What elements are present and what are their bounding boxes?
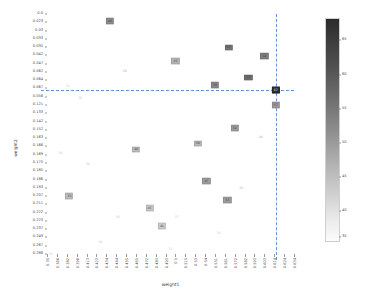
x-axis-label: weight1 — [47, 282, 294, 287]
y-tick-mark — [45, 245, 48, 246]
x-tick-label: 0.561 — [225, 258, 229, 268]
data-point[interactable]: 41 — [158, 223, 166, 230]
y-tick-mark — [45, 105, 48, 106]
x-tick-label: 0.551 — [215, 258, 219, 268]
data-point-label: 57 — [274, 104, 278, 107]
y-tick-label: 0.175 — [33, 161, 43, 165]
colorbar-tick-label: 35 — [342, 235, 347, 239]
data-point[interactable]: 40 — [132, 146, 140, 153]
y-tick-mark — [45, 154, 48, 155]
data-point[interactable]: 56 — [59, 153, 63, 156]
data-point[interactable]: 39 — [239, 188, 243, 191]
x-tick-mark — [146, 254, 147, 257]
y-tick-label: 0.047 — [33, 62, 43, 66]
x-tick-label: 0.423 — [96, 258, 100, 268]
colorbar-tick-mark — [339, 211, 341, 212]
y-tick-label: 0.207 — [33, 194, 43, 198]
data-point[interactable]: 45 — [145, 205, 153, 212]
x-tick-mark — [166, 254, 167, 257]
x-tick-mark — [136, 254, 137, 257]
x-tick-mark — [175, 254, 176, 257]
data-point-label: 53 — [225, 198, 229, 201]
y-tick-mark — [45, 187, 48, 188]
x-tick-label: 0.54 — [205, 258, 209, 266]
data-point[interactable]: 44 — [259, 136, 263, 139]
y-tick-label: 0.152 — [33, 128, 43, 132]
data-point-label: 52 — [233, 126, 237, 129]
x-tick-label: 0.515 — [185, 258, 189, 268]
data-point[interactable]: 33 — [65, 193, 73, 200]
y-tick-label: 0.056 — [33, 95, 43, 99]
data-point-label: 65 — [174, 59, 178, 62]
x-tick-mark — [254, 254, 255, 257]
y-tick-label: 0.067 — [33, 87, 43, 91]
y-tick-label: 0.062 — [33, 70, 43, 74]
x-tick-mark — [96, 254, 97, 257]
data-point-label: 31 — [169, 249, 173, 252]
data-point[interactable]: 59 — [123, 70, 127, 73]
x-tick-label: 0.582 — [245, 258, 249, 268]
data-point[interactable]: 52 — [231, 125, 239, 132]
x-tick-label: 0.493 — [166, 258, 170, 268]
data-point-label: 36 — [217, 232, 221, 235]
data-point[interactable]: 65 — [171, 57, 179, 64]
data-point[interactable]: 61 — [244, 74, 252, 81]
colorbar-tick-mark — [339, 177, 341, 178]
y-tick-label: 0.288 — [33, 252, 43, 256]
data-point[interactable]: 34 — [98, 242, 102, 245]
data-point-label: 58 — [213, 83, 217, 86]
data-point[interactable]: 66 — [106, 18, 114, 25]
x-tick-label: 0.413 — [87, 258, 91, 268]
y-tick-mark — [45, 220, 48, 221]
data-point[interactable]: 32 — [49, 254, 53, 257]
data-point[interactable]: 53 — [223, 197, 231, 204]
y-tick-mark — [45, 146, 48, 147]
data-point-label: 40 — [134, 148, 138, 151]
data-point[interactable]: 50 — [194, 140, 202, 147]
y-tick-label: 0.023 — [33, 20, 43, 24]
x-tick-mark — [185, 254, 186, 257]
y-tick-label: 0.169 — [33, 153, 43, 157]
x-tick-mark — [87, 254, 88, 257]
y-tick-label: 0.222 — [33, 211, 43, 215]
x-tick-label: 0.472 — [146, 258, 150, 268]
data-point[interactable]: 57 — [272, 102, 280, 109]
data-point-label: 63 — [227, 46, 231, 49]
colorbar-tick-mark — [339, 142, 341, 143]
y-tick-label: 0.064 — [33, 78, 43, 82]
data-point[interactable]: 63 — [224, 44, 232, 51]
colorbar-tick-mark — [339, 236, 341, 237]
y-tick-label: 0.211 — [33, 203, 43, 207]
y-tick-label: 0.166 — [33, 145, 43, 149]
data-point-label: 47 — [204, 179, 208, 182]
y-tick-label: 0.0 — [37, 12, 43, 16]
x-tick-label: 0.455 — [126, 258, 130, 268]
x-tick-label: 0.366 — [57, 258, 61, 268]
data-point[interactable]: 37 — [175, 216, 179, 219]
x-tick-mark — [205, 254, 206, 257]
y-tick-mark — [45, 88, 48, 89]
y-tick-mark — [45, 162, 48, 163]
x-tick-label: 0.603 — [264, 258, 268, 268]
y-tick-label: 0.042 — [33, 54, 43, 58]
x-tick-label: 0.35 — [47, 258, 51, 266]
y-tick-label: 0.033 — [33, 37, 43, 41]
y-tick-mark — [45, 38, 48, 39]
data-point[interactable]: 47 — [202, 177, 210, 184]
data-point-label: 50 — [196, 142, 200, 145]
x-tick-mark — [57, 254, 58, 257]
data-point[interactable]: 36 — [217, 232, 221, 235]
y-tick-label: 0.249 — [33, 236, 43, 240]
x-tick-label: 0.572 — [235, 258, 239, 268]
data-point[interactable]: 38 — [115, 216, 119, 219]
highlighted-data-point[interactable]: 67 — [272, 87, 280, 94]
data-point[interactable]: 55 — [78, 98, 82, 101]
data-point[interactable]: 31 — [169, 249, 173, 252]
y-tick-mark — [45, 96, 48, 97]
data-point[interactable]: 58 — [211, 81, 219, 88]
data-point[interactable]: 51 — [66, 86, 70, 89]
x-tick-mark — [195, 254, 196, 257]
data-point[interactable]: 62 — [260, 53, 268, 60]
data-point[interactable]: 36 — [86, 164, 90, 167]
y-tick-mark — [45, 138, 48, 139]
